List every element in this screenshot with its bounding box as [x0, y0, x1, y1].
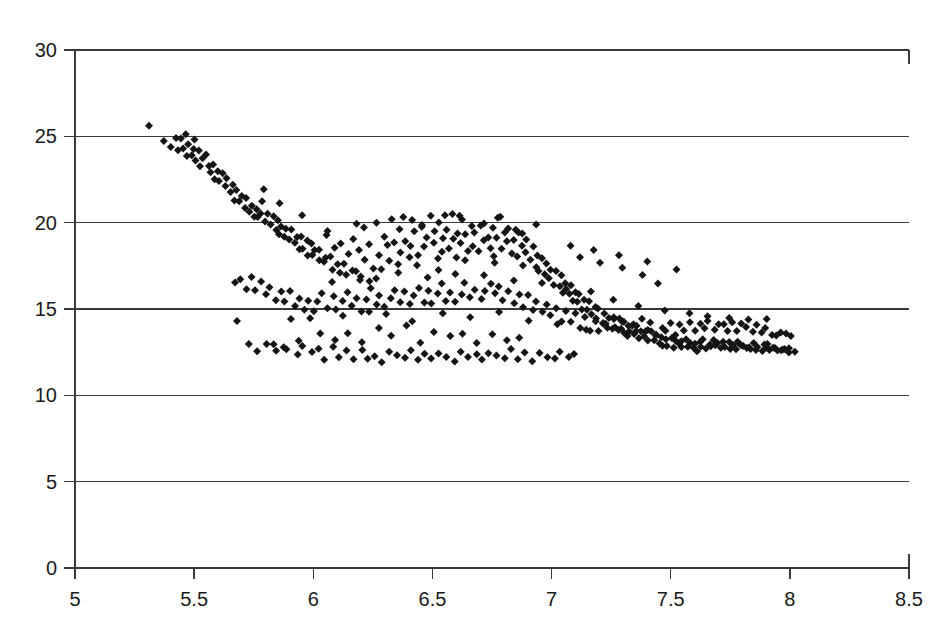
- data-point: [499, 296, 507, 304]
- data-point: [318, 289, 326, 297]
- data-point: [265, 283, 273, 291]
- data-point: [396, 225, 404, 233]
- data-point: [420, 350, 428, 358]
- data-point: [445, 244, 453, 252]
- data-point: [339, 297, 347, 305]
- data-point: [686, 309, 694, 317]
- data-point: [491, 289, 499, 297]
- data-point: [567, 318, 575, 326]
- data-point: [342, 271, 350, 279]
- data-point: [403, 322, 411, 330]
- data-point: [160, 137, 168, 145]
- data-point: [251, 286, 259, 294]
- data-point: [331, 244, 339, 252]
- data-point: [510, 236, 518, 244]
- data-point: [528, 357, 536, 365]
- data-point: [260, 185, 268, 193]
- data-point: [492, 234, 500, 242]
- data-point: [344, 329, 352, 337]
- data-point: [491, 259, 499, 267]
- data-point: [562, 307, 570, 315]
- data-point: [576, 324, 584, 332]
- data-point: [638, 315, 646, 323]
- data-point: [451, 270, 459, 278]
- data-point: [466, 313, 474, 321]
- data-point: [295, 295, 303, 303]
- data-point: [438, 279, 446, 287]
- data-point: [306, 314, 314, 322]
- data-point: [343, 346, 351, 354]
- data-point: [375, 292, 383, 300]
- data-point: [380, 233, 388, 241]
- data-point: [497, 245, 505, 253]
- data-point: [233, 317, 241, 325]
- data-point: [571, 309, 579, 317]
- data-point: [337, 239, 345, 247]
- data-point: [487, 244, 495, 252]
- data-point: [373, 300, 381, 308]
- data-point: [446, 332, 454, 340]
- data-point: [457, 239, 465, 247]
- x-tick-label-6: 6: [308, 588, 319, 610]
- data-point: [435, 218, 443, 226]
- y-tick-label-30: 30: [35, 39, 57, 61]
- data-point: [167, 143, 175, 151]
- data-point: [576, 253, 584, 261]
- data-point: [446, 288, 454, 296]
- data-point: [414, 356, 422, 364]
- data-point: [461, 230, 469, 238]
- data-point: [424, 273, 432, 281]
- data-point: [277, 287, 285, 295]
- data-point: [515, 334, 523, 342]
- data-point: [438, 248, 446, 256]
- data-point: [258, 197, 266, 205]
- y-tick-label-25: 25: [35, 125, 57, 147]
- data-point: [408, 317, 416, 325]
- data-point: [434, 255, 442, 263]
- data-point: [248, 273, 256, 281]
- x-tick-label-6.5: 6.5: [419, 588, 447, 610]
- data-point: [618, 264, 626, 272]
- data-point: [439, 309, 447, 317]
- data-point: [639, 271, 647, 279]
- data-point: [521, 348, 529, 356]
- data-point: [532, 297, 540, 305]
- data-point: [435, 350, 443, 358]
- data-point: [556, 348, 564, 356]
- axes: [75, 50, 909, 579]
- data-point: [522, 235, 530, 243]
- data-point: [557, 271, 565, 279]
- data-point: [330, 292, 338, 300]
- data-point: [550, 281, 558, 289]
- data-point: [401, 354, 409, 362]
- data-point: [406, 300, 414, 308]
- data-point: [473, 339, 481, 347]
- data-point: [460, 279, 468, 287]
- data-point: [489, 224, 497, 232]
- data-point: [443, 226, 451, 234]
- data-point: [427, 212, 435, 220]
- data-point: [373, 219, 381, 227]
- data-point: [287, 315, 295, 323]
- data-point: [596, 259, 604, 267]
- data-point: [331, 336, 339, 344]
- data-point: [495, 282, 503, 290]
- data-point: [280, 297, 288, 305]
- scatter-chart: 051015202530 55.566.577.588.5: [0, 0, 950, 639]
- data-point: [529, 306, 537, 314]
- data-point: [414, 251, 422, 259]
- data-point: [501, 354, 509, 362]
- data-point: [396, 248, 404, 256]
- data-point: [478, 356, 486, 364]
- data-point: [543, 301, 551, 309]
- data-point: [518, 242, 526, 250]
- data-point: [394, 269, 402, 277]
- data-point: [522, 248, 530, 256]
- data-point: [313, 297, 321, 305]
- y-tick-label-15: 15: [35, 298, 57, 320]
- data-point: [345, 250, 353, 258]
- x-tick-label-8: 8: [784, 588, 795, 610]
- data-point: [431, 227, 439, 235]
- data-point: [287, 225, 295, 233]
- data-point: [542, 260, 550, 268]
